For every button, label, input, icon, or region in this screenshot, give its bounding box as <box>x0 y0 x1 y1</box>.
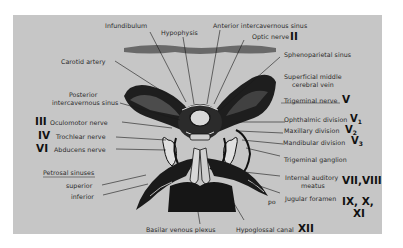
label-hypophysis: Hypophysis <box>161 29 198 36</box>
label-internal-auditory-meatus-2: meatus <box>301 182 325 189</box>
label-basilar-venous-plexus: Basilar venous plexus <box>146 226 216 233</box>
label-anterior-intercavernous-sinus: Anterior intercavernous sinus <box>213 22 307 29</box>
roman-jugular-1: IX, X, <box>342 196 374 207</box>
label-superficial-middle-cerebral-vein-2: cerebral vein <box>292 81 334 88</box>
svg-text:ꝑo: ꝑo <box>267 198 276 206</box>
label-mandibular-division: Mandibular division <box>283 139 345 146</box>
label-trigeminal-ganglion: Trigeminal ganglion <box>284 156 347 163</box>
roman-trigeminal: V <box>342 94 350 105</box>
label-trigeminal-nerve: Trigeminal nerve <box>284 97 337 104</box>
roman-internal-auditory: VII,VIII <box>342 175 382 186</box>
label-abducens-nerve: Abducens nerve <box>54 146 106 153</box>
label-sphenoparietal-sinus: Sphenoparietal sinus <box>284 51 351 58</box>
roman-mandibular: V3 <box>351 135 363 149</box>
label-petrosal-sinuses: Petrosal sinuses <box>43 169 94 176</box>
roman-trochlear: IV <box>38 130 50 141</box>
label-ophthalmic-division: Ophthalmic division <box>284 116 347 123</box>
label-carotid-artery: Carotid artery <box>61 58 106 65</box>
roman-jugular-2: XI <box>353 208 365 219</box>
roman-oculomotor: III <box>35 116 47 127</box>
label-internal-auditory-meatus-1: Internal auditory <box>285 174 338 181</box>
label-optic-nerve: Optic nerve <box>252 33 289 40</box>
label-posterior-intercavernous-sinus-2: intercavernous sinus <box>52 99 118 106</box>
label-infundibulum: Infundibulum <box>105 22 147 29</box>
label-oculomotor-nerve: Oculomotor nerve <box>50 119 108 126</box>
label-hypoglossal-canal: Hypoglossal canal <box>236 226 294 233</box>
label-posterior-intercavernous-sinus-1: Posterior <box>69 91 97 98</box>
label-maxillary-division: Maxillary division <box>284 127 339 134</box>
label-superficial-middle-cerebral-vein-1: Superficial middle <box>284 73 342 80</box>
label-petrosal-superior: superior <box>66 182 92 189</box>
roman-hypoglossal: XII <box>298 223 314 234</box>
label-jugular-foramen: Jugular foramen <box>285 195 336 202</box>
label-trochlear-nerve: Trochlear nerve <box>56 133 106 140</box>
roman-optic-nerve: II <box>290 31 298 42</box>
label-petrosal-inferior: inferior <box>71 193 94 200</box>
roman-abducens: VI <box>36 143 48 154</box>
